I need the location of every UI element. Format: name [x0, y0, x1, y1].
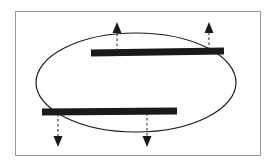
figure-background [0, 0, 269, 167]
lower-bar [42, 111, 177, 112]
figure-container: Ellipse with two horizontal bars and fou… [0, 0, 269, 167]
upper-bar [91, 51, 224, 53]
figure-canvas [0, 0, 269, 167]
